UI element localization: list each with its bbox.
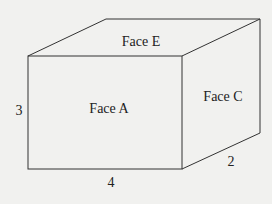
face-e-label: Face E [122,35,160,49]
prism-diagram: Face E Face A Face C 3 4 2 [0,0,272,204]
height-label: 3 [16,104,23,118]
length-label: 4 [108,176,115,190]
face-a-label: Face A [89,102,128,116]
depth-label: 2 [228,155,235,169]
face-c-label: Face C [203,90,242,104]
